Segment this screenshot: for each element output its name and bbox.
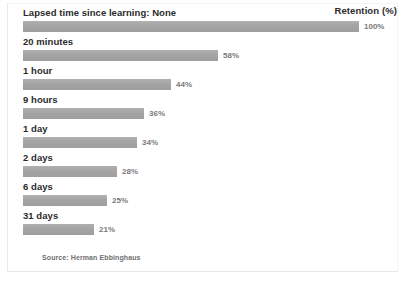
category-label: 1 hour <box>23 65 52 77</box>
source-note: Source: Herman Ebbinghaus <box>42 254 141 261</box>
bar-value-label: 21% <box>99 225 115 235</box>
retention-bar-chart: Retention (%) Lapsed time since learning… <box>0 0 412 281</box>
bar-track <box>23 50 359 61</box>
bar-value-label: 36% <box>149 109 165 119</box>
bar <box>23 137 137 148</box>
bar-row: 2 days28% <box>0 152 412 181</box>
category-label: 9 hours <box>23 94 58 106</box>
bar-row: Lapsed time since learning: None100% <box>0 7 412 36</box>
bar <box>23 79 171 90</box>
category-label: 20 minutes <box>23 36 73 48</box>
bar-track <box>23 21 359 32</box>
bar-value-label: 44% <box>176 80 192 90</box>
category-label: Lapsed time since learning: None <box>23 7 176 19</box>
category-label: 1 day <box>23 123 48 135</box>
category-label: 31 days <box>23 210 58 222</box>
bar-track <box>23 224 359 235</box>
bar-row: 31 days21% <box>0 210 412 239</box>
bar <box>23 50 218 61</box>
bar-track <box>23 137 359 148</box>
bar-row: 9 hours36% <box>0 94 412 123</box>
chart-border-bottom <box>7 271 398 272</box>
bar-row: 20 minutes58% <box>0 36 412 65</box>
chart-border-top <box>7 3 398 4</box>
bar-value-label: 100% <box>364 22 384 32</box>
bar <box>23 195 107 206</box>
bar-track <box>23 195 359 206</box>
bar-value-label: 58% <box>223 51 239 61</box>
bar <box>23 21 359 32</box>
category-label: 2 days <box>23 152 53 164</box>
bar-row: 1 hour44% <box>0 65 412 94</box>
bar <box>23 108 144 119</box>
bar <box>23 224 94 235</box>
bar-track <box>23 108 359 119</box>
bar-track <box>23 166 359 177</box>
category-label: 6 days <box>23 181 53 193</box>
bar-value-label: 28% <box>122 167 138 177</box>
bar-row: 1 day34% <box>0 123 412 152</box>
bar-row: 6 days25% <box>0 181 412 210</box>
bar-value-label: 34% <box>142 138 158 148</box>
bar <box>23 166 117 177</box>
bar-value-label: 25% <box>112 196 128 206</box>
